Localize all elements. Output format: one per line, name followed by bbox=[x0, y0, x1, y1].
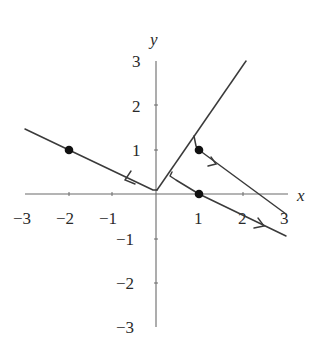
arrow-left-icon bbox=[125, 171, 135, 184]
y-tick-label: 3 bbox=[132, 52, 141, 71]
y-tick-label: 2 bbox=[132, 97, 141, 116]
x-tick-label: −3 bbox=[13, 209, 31, 228]
trajectory-upper bbox=[194, 136, 286, 214]
x-axis-label: x bbox=[296, 186, 305, 205]
switching-ray bbox=[157, 61, 246, 190]
x-tick-label: −1 bbox=[99, 209, 117, 228]
y-tick-label: −2 bbox=[116, 274, 134, 293]
phase-diagram: x y −3 −2 −1 1 2 3 3 2 1 −1 −2 −3 bbox=[0, 0, 321, 360]
point-upper-right bbox=[195, 146, 204, 155]
trajectory-lower bbox=[170, 172, 286, 236]
y-tick-label: −3 bbox=[116, 318, 134, 337]
y-tick-label: 1 bbox=[132, 141, 141, 160]
x-tick-label: 2 bbox=[238, 209, 247, 228]
x-tick-label: 1 bbox=[194, 209, 203, 228]
point-left bbox=[65, 146, 74, 155]
y-tick-label: −1 bbox=[116, 230, 134, 249]
x-tick-label: −2 bbox=[56, 209, 74, 228]
y-axis-label: y bbox=[148, 30, 158, 49]
point-on-x-axis bbox=[195, 190, 204, 199]
